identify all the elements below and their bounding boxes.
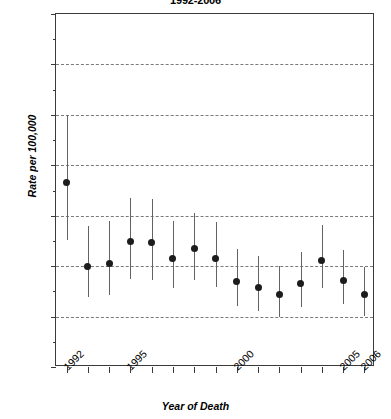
error-bar (67, 115, 68, 240)
data-point (169, 255, 176, 262)
x-tick-mark (152, 367, 153, 373)
x-tick-mark (322, 367, 323, 373)
data-point (340, 277, 347, 284)
x-tick-mark (258, 367, 259, 373)
y-tick-minor-mark (53, 140, 56, 141)
gridline (56, 317, 373, 318)
data-point (255, 284, 262, 291)
gridline (56, 64, 373, 65)
error-bar (109, 221, 110, 296)
data-point (191, 245, 198, 252)
data-point (276, 291, 283, 298)
y-tick-mark (51, 64, 56, 65)
y-tick-mark (51, 317, 56, 318)
data-point (127, 238, 134, 245)
x-tick-mark (216, 367, 217, 373)
y-tick-minor-mark (53, 191, 56, 192)
gridline (56, 266, 373, 267)
gridline (56, 115, 373, 116)
data-point (84, 263, 91, 270)
y-tick-mark (51, 14, 56, 15)
data-point (212, 255, 219, 262)
y-tick-mark (51, 266, 56, 267)
data-point (318, 257, 325, 264)
data-point (297, 280, 304, 287)
y-tick-mark (51, 115, 56, 116)
error-bar (88, 226, 89, 298)
y-tick-mark (51, 367, 56, 368)
x-tick-mark (301, 367, 302, 373)
x-tick-mark (279, 367, 280, 373)
y-axis-title: Rate per 100,000 (26, 86, 38, 226)
y-tick-minor-mark (53, 39, 56, 40)
gridline (56, 216, 373, 217)
gridline (56, 165, 373, 166)
chart-title: 1992-2006 (0, 0, 391, 6)
y-tick-minor-mark (53, 241, 56, 242)
data-point (233, 278, 240, 285)
y-tick-minor-mark (53, 291, 56, 292)
y-tick-mark (51, 165, 56, 166)
data-point (148, 239, 155, 246)
data-point (106, 260, 113, 267)
data-point (361, 291, 368, 298)
data-point (63, 179, 70, 186)
x-tick-mark (173, 367, 174, 373)
y-tick-mark (51, 216, 56, 217)
chart-figure: 1992-2006 0.00.51.01.52.02.53.03.5 19921… (0, 0, 391, 419)
y-tick-minor-mark (53, 90, 56, 91)
y-tick-minor-mark (53, 342, 56, 343)
x-tick-mark (194, 367, 195, 373)
x-axis-title: Year of Death (0, 400, 391, 412)
x-tick-mark (88, 367, 89, 373)
plot-area (55, 13, 374, 366)
x-tick-mark (109, 367, 110, 373)
